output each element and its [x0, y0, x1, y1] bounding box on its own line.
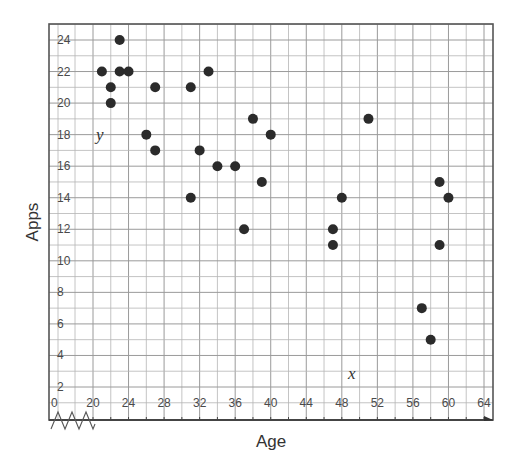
data-point [106, 82, 116, 92]
data-point [106, 98, 116, 108]
data-point [266, 130, 276, 140]
data-point [141, 130, 151, 140]
data-point [426, 335, 436, 345]
y-tick-label: 24 [57, 33, 71, 47]
scatter-chart: 24681012141618202224 0202428323640444852… [0, 0, 518, 469]
data-point [435, 177, 445, 187]
x-tick-label: 36 [229, 396, 243, 410]
y-tick-label: 8 [57, 285, 64, 299]
data-point [363, 114, 373, 124]
x-tick-label: 20 [86, 396, 100, 410]
data-point [195, 145, 205, 155]
y-tick-label: 18 [57, 128, 71, 142]
y-axis-title: Apps [23, 203, 42, 242]
data-point [97, 67, 107, 77]
data-point [239, 224, 249, 234]
x-tick-label: 24 [122, 396, 136, 410]
y-variable-label: y [94, 125, 104, 144]
data-point [115, 35, 125, 45]
x-variable-label: x [347, 364, 356, 383]
x-tick-label: 32 [193, 396, 207, 410]
data-point [124, 67, 134, 77]
x-tick-label: 48 [335, 396, 349, 410]
x-axis-title: Age [256, 432, 286, 451]
grid-lines [49, 24, 493, 420]
data-point [257, 177, 267, 187]
y-tick-label: 10 [57, 254, 71, 268]
x-tick-label: 52 [371, 396, 385, 410]
data-point [435, 240, 445, 250]
y-tick-label: 16 [57, 159, 71, 173]
y-tick-label: 6 [57, 317, 64, 331]
y-tick-label: 4 [57, 348, 64, 362]
x-tick-label: 60 [442, 396, 456, 410]
data-point [115, 67, 125, 77]
data-point [417, 303, 427, 313]
x-tick-label: 40 [264, 396, 278, 410]
data-points [97, 35, 454, 345]
y-tick-label: 14 [57, 191, 71, 205]
data-point [337, 193, 347, 203]
data-point [328, 224, 338, 234]
x-tick-label: 44 [300, 396, 314, 410]
x-tick-label: 56 [406, 396, 420, 410]
x-tick-label-origin: 0 [51, 396, 58, 410]
data-point [443, 193, 453, 203]
data-point [212, 161, 222, 171]
y-tick-label: 20 [57, 96, 71, 110]
y-tick-label: 2 [57, 380, 64, 394]
data-point [186, 82, 196, 92]
data-point [248, 114, 258, 124]
x-tick-label: 28 [157, 396, 171, 410]
data-point [204, 67, 214, 77]
data-point [150, 82, 160, 92]
data-point [230, 161, 240, 171]
y-tick-label: 22 [57, 65, 71, 79]
data-point [328, 240, 338, 250]
x-tick-label: 64 [477, 396, 491, 410]
data-point [150, 145, 160, 155]
y-tick-label: 12 [57, 222, 71, 236]
data-point [186, 193, 196, 203]
